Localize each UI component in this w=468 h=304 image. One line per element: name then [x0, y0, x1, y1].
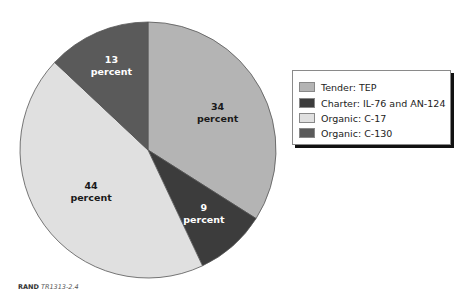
- legend-swatch: [299, 128, 315, 138]
- legend-swatch: [299, 98, 315, 108]
- slice-unit: percent: [197, 113, 239, 124]
- slice-value: 44: [84, 180, 98, 191]
- chart-legend: Tender: TEP Charter: IL-76 and AN-124 Or…: [292, 70, 451, 145]
- legend-item-tender-tep: Tender: TEP: [299, 80, 376, 94]
- pie-chart: 34percent9percent44percent13percent: [0, 0, 300, 304]
- slice-unit: percent: [183, 214, 225, 225]
- figure-source: RAND TR1313-2.4: [18, 283, 79, 291]
- slice-value: 9: [201, 202, 208, 213]
- legend-item-organic-c130: Organic: C-130: [299, 126, 392, 140]
- legend-label: Organic: C-130: [321, 128, 392, 139]
- slice-unit: percent: [70, 192, 112, 203]
- slice-value: 13: [105, 54, 118, 65]
- slice-value: 34: [211, 101, 225, 112]
- legend-label: Charter: IL-76 and AN-124: [321, 98, 445, 109]
- legend-item-charter: Charter: IL-76 and AN-124: [299, 96, 445, 110]
- source-id: TR1313-2.4: [41, 283, 79, 291]
- legend-swatch: [299, 82, 315, 92]
- slice-unit: percent: [91, 66, 133, 77]
- legend-swatch: [299, 113, 315, 123]
- source-org: RAND: [18, 283, 39, 291]
- legend-label: Tender: TEP: [321, 82, 376, 93]
- legend-label: Organic: C-17: [321, 113, 386, 124]
- legend-item-organic-c17: Organic: C-17: [299, 111, 386, 125]
